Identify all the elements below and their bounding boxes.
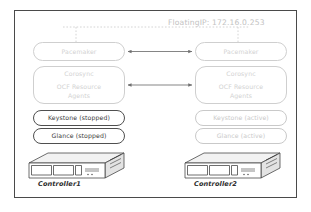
diagram-frame (14, 10, 297, 198)
right-corosync-label: Corosync (226, 69, 255, 79)
left-glance-label: Glance (stopped) (52, 131, 107, 141)
right-corosync-box: Corosync OCF Resource Agents (195, 66, 287, 104)
ha-architecture-diagram: FloatingIP: 172.16.0.253 Pacemaker Coros… (0, 0, 311, 212)
left-ocf-label-line1: OCF Resource (57, 82, 101, 92)
controller1-label: Controller1 (38, 180, 81, 188)
left-corosync-label: Corosync (64, 69, 93, 79)
left-keystone-box: Keystone (stopped) (33, 110, 125, 126)
right-glance-label: Glance (active) (217, 131, 266, 141)
left-glance-box: Glance (stopped) (33, 128, 125, 144)
left-corosync-box: Corosync OCF Resource Agents (33, 66, 125, 104)
right-ocf-label-line2: Agents (230, 91, 252, 101)
left-ocf-label-line2: Agents (68, 91, 90, 101)
controller2-label: Controller2 (194, 180, 237, 188)
left-keystone-label: Keystone (stopped) (48, 113, 110, 123)
left-pacemaker-box: Pacemaker (33, 42, 125, 61)
floating-ip-label: FloatingIP: 172.16.0.253 (168, 18, 265, 27)
right-glance-box: Glance (active) (195, 128, 287, 144)
right-pacemaker-box: Pacemaker (195, 42, 287, 61)
right-keystone-label: Keystone (active) (213, 113, 269, 123)
left-pacemaker-label: Pacemaker (62, 47, 97, 57)
right-ocf-label-line1: OCF Resource (219, 82, 263, 92)
right-keystone-box: Keystone (active) (195, 110, 287, 126)
right-pacemaker-label: Pacemaker (224, 47, 259, 57)
